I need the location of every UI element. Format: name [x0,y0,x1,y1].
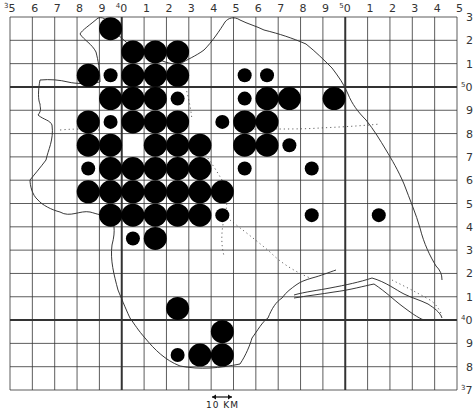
large-dot [256,134,279,157]
large-dot [278,87,301,110]
scale-bar: 10 KM [206,395,239,410]
large-dot [188,204,211,227]
top-axis-labels: 356789401234567895012345 [4,2,463,15]
large-dot [77,134,100,157]
top-axis-label: 5 [233,2,240,15]
top-axis-label: 1 [143,2,150,15]
right-axis-label: 50 [461,81,472,94]
large-dot [256,110,279,133]
large-dot [233,134,256,157]
large-dot [99,87,122,110]
right-axis-label: 3 [466,11,473,24]
large-dot [166,40,189,63]
occurrence-dots [77,17,386,366]
large-dot [121,110,144,133]
small-dot [238,68,252,82]
large-dot [211,320,234,343]
right-axis-label: 5 [466,198,473,211]
large-dot [99,180,122,203]
large-dot [121,40,144,63]
right-axis-label: 9 [466,337,473,350]
right-axis-label: 3 [466,244,473,257]
large-dot [166,64,189,87]
large-dot [233,110,256,133]
large-dot [166,297,189,320]
large-dot [99,134,122,157]
large-dot [144,134,167,157]
large-dot [211,344,234,367]
right-axis-label: 2 [466,34,473,47]
large-dot [144,157,167,180]
top-axis-label: 50 [339,2,350,15]
large-dot [166,134,189,157]
large-dot [99,17,122,40]
distribution-map: 356789401234567895012345 321509876543214… [0,0,475,410]
large-dot [144,64,167,87]
large-dot [166,157,189,180]
small-dot [81,162,95,176]
top-axis-label: 35 [4,2,15,15]
top-axis-label: 3 [188,2,195,15]
small-dot [171,92,185,106]
small-dot [305,208,319,222]
small-dot [171,348,185,362]
arrow-right-icon [228,395,232,400]
large-dot [144,40,167,63]
top-axis-label: 7 [54,2,61,15]
large-dot [77,180,100,203]
large-dot [188,157,211,180]
large-dot [77,110,100,133]
small-dot [238,162,252,176]
small-dot [372,208,386,222]
large-dot [144,204,167,227]
small-dot [104,115,118,129]
small-dot [104,68,118,82]
small-dot [238,92,252,106]
large-dot [188,134,211,157]
right-axis-labels: 32150987654321409837 [461,11,473,397]
large-dot [121,157,144,180]
small-dot [215,208,229,222]
large-dot [99,204,122,227]
small-dot [305,162,319,176]
right-axis-label: 8 [466,361,473,374]
large-dot [144,87,167,110]
right-axis-label: 37 [461,384,472,397]
large-dot [166,110,189,133]
top-axis-label: 7 [277,2,284,15]
top-axis-label: 6 [31,2,38,15]
top-axis-label: 3 [411,2,418,15]
top-axis-label: 5 [456,2,463,15]
small-dot [215,115,229,129]
top-axis-label: 2 [389,2,396,15]
large-dot [77,64,100,87]
right-axis-label: 8 [466,128,473,141]
right-axis-label: 2 [466,267,473,280]
large-dot [211,180,234,203]
right-axis-label: 40 [461,314,472,327]
large-dot [99,157,122,180]
right-axis-label: 9 [466,104,473,117]
top-axis-label: 9 [322,2,329,15]
small-dot [260,68,274,82]
large-dot [144,227,167,250]
top-axis-label: 2 [165,2,172,15]
top-axis-label: 4 [210,2,217,15]
top-axis-label: 8 [300,2,307,15]
large-dot [166,204,189,227]
large-dot [121,180,144,203]
large-dot [188,344,211,367]
small-dot [282,138,296,152]
top-axis-label: 1 [367,2,374,15]
right-axis-label: 1 [466,58,473,71]
large-dot [121,87,144,110]
arrow-left-icon [212,395,216,400]
top-axis-label: 40 [116,2,127,15]
top-axis-label: 6 [255,2,262,15]
right-axis-label: 6 [466,174,473,187]
large-dot [256,87,279,110]
right-axis-label: 4 [466,221,473,234]
large-dot [121,204,144,227]
large-dot [188,180,211,203]
large-dot [323,87,346,110]
